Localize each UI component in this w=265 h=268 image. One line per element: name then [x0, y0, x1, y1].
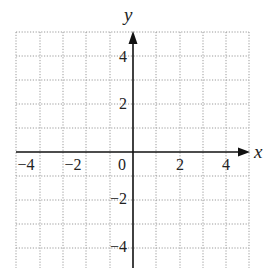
y-tick-label: 4 [119, 48, 127, 65]
y-axis-arrow-icon [129, 31, 138, 44]
x-tick-label: 2 [176, 156, 184, 173]
coordinate-plane: y x −4 −2 0 2 4 4 2 −2 −4 [0, 0, 265, 268]
origin-label: 0 [118, 156, 126, 173]
x-axis-arrow-icon [238, 148, 250, 157]
x-tick-label: −4 [17, 156, 34, 173]
y-tick-label: 2 [119, 95, 127, 112]
y-tick-label: −2 [110, 190, 127, 207]
y-axis-label: y [122, 4, 133, 25]
x-tick-label: −2 [64, 156, 81, 173]
y-tick-label: −4 [110, 238, 127, 255]
x-tick-label: 4 [222, 156, 230, 173]
x-axis-label: x [253, 141, 263, 162]
